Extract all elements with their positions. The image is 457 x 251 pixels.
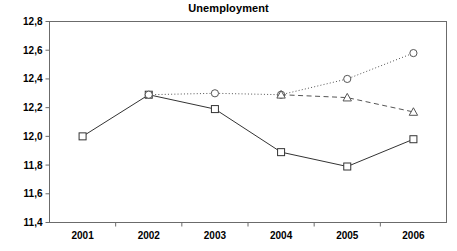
chart-plot: 11,411,611,812,012,212,412,612,8 2001200… (0, 0, 457, 251)
x-axis-ticks (116, 223, 381, 227)
y-axis-labels: 11,411,611,812,012,212,412,612,8 (23, 16, 43, 228)
data-point-square (344, 163, 351, 170)
series-line (149, 53, 414, 95)
plot-frame (50, 22, 447, 223)
data-point-circle (410, 49, 417, 56)
x-tick-label: 2004 (270, 230, 293, 241)
series-line (83, 95, 414, 167)
series-actual (79, 91, 417, 170)
y-tick-label: 11,6 (24, 188, 43, 199)
y-axis-ticks (46, 22, 50, 223)
x-axis-labels: 200120022003200420052006 (71, 230, 425, 241)
chart-container: Unemployment 11,411,611,812,012,212,412,… (0, 0, 457, 251)
y-tick-label: 12,0 (23, 131, 43, 142)
y-tick-label: 11,8 (24, 160, 43, 171)
x-tick-label: 2006 (402, 230, 425, 241)
data-point-square (79, 133, 86, 140)
series-layer (79, 49, 418, 170)
data-point-square (410, 136, 417, 143)
y-tick-label: 12,4 (23, 73, 43, 84)
x-tick-label: 2005 (336, 230, 359, 241)
x-tick-label: 2003 (204, 230, 227, 241)
x-tick-label: 2001 (71, 230, 94, 241)
y-tick-label: 12,8 (23, 16, 43, 27)
data-point-square (278, 149, 285, 156)
data-point-circle (344, 75, 351, 82)
y-tick-label: 12,6 (23, 45, 43, 56)
y-tick-label: 11,4 (24, 217, 43, 228)
data-point-circle (145, 91, 152, 98)
data-point-circle (211, 90, 218, 97)
x-tick-label: 2002 (138, 230, 161, 241)
series-projection-dashed (277, 91, 418, 116)
y-tick-label: 12,2 (23, 102, 43, 113)
data-point-square (211, 106, 218, 113)
